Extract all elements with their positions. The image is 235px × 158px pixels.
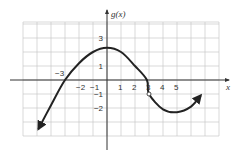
- x-tick-label: 2: [132, 83, 137, 92]
- grid: [23, 22, 219, 136]
- open-circle-point: [147, 92, 151, 96]
- y-axis-label: g(x): [111, 9, 126, 19]
- y-tick-label: −1: [94, 90, 104, 99]
- annotations: [147, 92, 151, 96]
- function-graph: x g(x) −3−2−11234531−1−2: [0, 0, 235, 158]
- y-tick-label: −2: [94, 104, 104, 113]
- y-tick-label: 1: [99, 62, 104, 71]
- x-tick-label: 5: [174, 83, 179, 92]
- y-tick-label: 3: [99, 34, 104, 43]
- x-tick-label: 4: [160, 83, 165, 92]
- x-tick-label: 1: [118, 83, 123, 92]
- x-axis-label: x: [225, 82, 230, 92]
- tick-labels: −3−2−11234531−1−2: [55, 34, 179, 113]
- x-tick-label: −3: [55, 69, 65, 78]
- axes: x g(x): [10, 9, 230, 150]
- x-tick-label: −2: [76, 83, 86, 92]
